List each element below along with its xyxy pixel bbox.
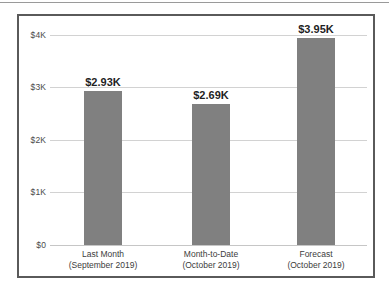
bar-last-month[interactable] (84, 91, 122, 245)
bar-month-to-date[interactable] (192, 104, 230, 245)
bar-value-last-month: $2.93K (69, 77, 137, 88)
category-label-forecast: Forecast (October 2019) (270, 249, 362, 272)
bar-forecast[interactable] (297, 38, 335, 245)
category-label-month-to-date: Month-to-Date (October 2019) (165, 249, 257, 272)
bar-value-forecast: $3.95K (282, 24, 350, 35)
plot-area: $4K $3K $2K $1K $0 $2.93K $2.69K $3.95K … (19, 16, 373, 276)
top-divider-rule (0, 2, 389, 3)
gridline-4k (50, 35, 367, 36)
y-axis-tick-4k: $4K (19, 31, 46, 40)
y-axis-tick-3k: $3K (19, 83, 46, 92)
category-label-last-month-line2: (September 2019) (57, 260, 149, 271)
bar-value-month-to-date: $2.69K (177, 90, 245, 101)
chart-screenshot: $4K $3K $2K $1K $0 $2.93K $2.69K $3.95K … (0, 0, 389, 294)
category-label-forecast-line2: (October 2019) (270, 260, 362, 271)
y-axis-tick-1k: $1K (19, 188, 46, 197)
chart-frame: $4K $3K $2K $1K $0 $2.93K $2.69K $3.95K … (17, 14, 375, 278)
category-label-forecast-line1: Forecast (299, 249, 332, 259)
category-label-month-to-date-line1: Month-to-Date (184, 249, 238, 259)
category-label-month-to-date-line2: (October 2019) (165, 260, 257, 271)
gridline-0-baseline (50, 245, 367, 246)
category-label-last-month-line1: Last Month (82, 249, 124, 259)
category-label-last-month: Last Month (September 2019) (57, 249, 149, 272)
y-axis-tick-2k: $2K (19, 136, 46, 145)
y-axis-tick-0: $0 (19, 241, 46, 250)
